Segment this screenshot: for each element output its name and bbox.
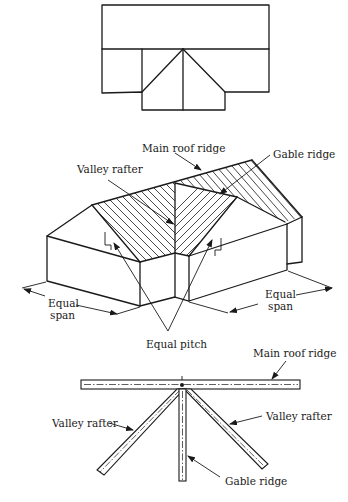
leader-framing-valley-right	[230, 416, 262, 424]
left-valley-slope-hatch	[32, 170, 260, 270]
plan-valley-right	[183, 49, 225, 92]
plan-view	[102, 5, 269, 110]
iso-right-valley-top	[175, 183, 237, 197]
iso-gable-eave-left	[140, 253, 175, 262]
label-framing-main-roof-ridge: Main roof ridge	[253, 347, 336, 359]
main-roof-right-hatch	[154, 150, 320, 230]
leader-main-roof-ridge	[175, 153, 201, 170]
lower-outline	[102, 49, 269, 110]
label-framing-gable-ridge: Gable ridge	[225, 475, 287, 487]
framing-view: Main roof ridge Valley rafter Valley raf…	[51, 347, 336, 487]
label-framing-valley-rafter-left: Valley rafter	[51, 417, 119, 429]
framing-valley-rafter-left	[97, 389, 184, 475]
span-tick-left-b	[117, 307, 140, 314]
label-equal-span-left-2: span	[50, 309, 75, 321]
main-roof-outline	[102, 5, 269, 49]
leader-framing-gable-ridge	[188, 456, 220, 477]
leader-valley-rafter	[108, 180, 173, 224]
label-equal-span-right-2: span	[268, 300, 293, 312]
roof-diagram: Main roof ridge Gable ridge Valley rafte…	[0, 0, 348, 502]
label-framing-valley-rafter-right: Valley rafter	[265, 410, 333, 422]
label-equal-pitch: Equal pitch	[146, 338, 207, 350]
flashing-mark-left	[105, 232, 111, 250]
framing-gable-ridge	[179, 389, 186, 481]
iso-right-eave-return	[287, 217, 302, 224]
label-equal-span-right-1: Equal	[265, 288, 296, 300]
span-tick-left-a	[22, 282, 46, 288]
framing-valley-rafter-right	[184, 389, 268, 469]
span-arrow-right-a	[230, 304, 258, 312]
plan-valley-left	[142, 49, 183, 92]
label-main-roof-ridge: Main roof ridge	[142, 142, 225, 154]
label-valley-rafter: Valley rafter	[76, 163, 144, 175]
right-valley-slope-hatch	[116, 170, 296, 270]
isometric-view: Main roof ridge Gable ridge Valley rafte…	[22, 142, 335, 350]
iso-right-back-wall	[287, 217, 302, 264]
label-equal-span-left-1: Equal	[48, 297, 79, 309]
span-arrow-right-b	[296, 288, 332, 295]
iso-right-eave	[189, 224, 287, 256]
leader-gable-ridge	[220, 155, 270, 194]
junction-node	[180, 383, 184, 387]
iso-gable-eave-right	[175, 253, 189, 256]
leader-framing-main-roof-ridge	[272, 361, 286, 379]
span-arrow-left-b	[76, 305, 117, 314]
span-arrow-left-a	[24, 289, 45, 296]
span-tick-right-a	[189, 302, 228, 313]
label-gable-ridge: Gable ridge	[273, 148, 335, 160]
span-tick-right-b	[288, 271, 332, 288]
leader-equal-pitch-left	[114, 243, 168, 331]
